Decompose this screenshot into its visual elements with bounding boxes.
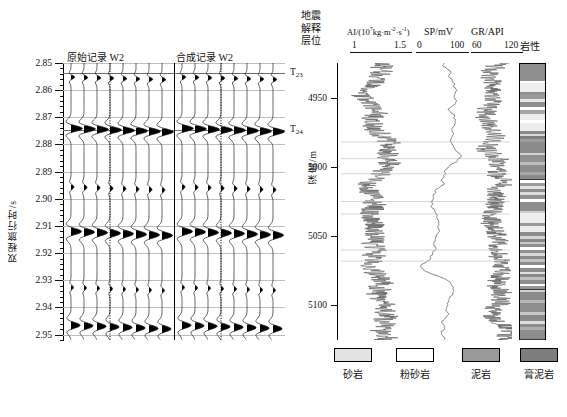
seismic-trace-line — [229, 63, 246, 340]
curve-header-ai: AI/(107kg·m-2·s-1) — [347, 26, 410, 37]
seismic-trace-fill — [247, 76, 258, 332]
seismic-trace-fill — [208, 75, 219, 331]
seismic-trace-line — [118, 63, 135, 340]
seismic-trace-line — [131, 63, 147, 340]
seismic-trace-fill — [234, 76, 245, 332]
seismic-trace-fill — [123, 76, 135, 332]
curve-header-gr: GR/API — [471, 26, 504, 37]
seismic-trace-fill — [136, 77, 147, 332]
seismic-trace-fill — [221, 76, 232, 331]
scale-sp-max: 100 — [450, 40, 464, 50]
horizon-label-subscript: 23 — [296, 71, 303, 79]
y-axis-minor-tick — [60, 340, 65, 341]
scale-bar-sp — [416, 52, 469, 53]
seismic-trace-line — [216, 63, 233, 340]
seismic-trace-fill — [195, 75, 206, 330]
panel-title-synthetic-label: 合成记录 — [176, 52, 216, 63]
panel-title-original-label: 原始记录 — [67, 52, 107, 63]
seismic-trace-fill — [260, 77, 271, 333]
legend-item-mudstone: 泥岩 — [458, 348, 504, 381]
well-log-curves — [337, 63, 512, 340]
legend-item-siltstone: 粉砂岩 — [392, 348, 438, 381]
depth-axis-tick-label: 5000 — [308, 162, 327, 172]
lithology-legend: 砂岩粉砂岩泥岩膏泥岩 — [330, 348, 562, 388]
legend-swatch-sandstone — [334, 348, 372, 362]
legend-item-sandstone: 砂岩 — [330, 348, 376, 381]
seismic-trace-fill — [273, 77, 284, 333]
seismic-trace-line — [255, 63, 272, 340]
legend-swatch-gypsum-mudstone — [520, 348, 558, 362]
figure-canvas: 双程旅行时/s 原始记录 W2 合成记录 W2 T23T24 地震 解释 层位 … — [0, 0, 567, 417]
y-axis-tick-label: 2.91 — [35, 221, 52, 231]
seismic-trace-line — [144, 63, 161, 340]
seismic-trace-fill — [182, 75, 193, 330]
scale-bar-gr — [471, 52, 523, 53]
panel-title-original-well: W2 — [110, 52, 124, 63]
y-axis-tick-label: 2.85 — [35, 58, 52, 68]
depth-axis — [330, 63, 337, 340]
panel-title-synthetic-well: W2 — [219, 52, 233, 63]
scale-bar-ai — [350, 52, 412, 53]
scale-gr-min: 60 — [472, 40, 482, 50]
seismic-trace-fill — [97, 75, 109, 331]
seismic-y-axis-title: 双程旅行时/s — [6, 200, 20, 263]
well-log-panel — [337, 63, 512, 340]
seismic-trace-line — [268, 63, 285, 340]
seismic-trace-fill — [84, 75, 95, 330]
depth-axis-tick-label: 5050 — [308, 231, 327, 241]
scale-gr-max: 120 — [504, 40, 518, 50]
panel-title-original: 原始记录 W2 — [67, 49, 124, 64]
legend-swatch-mudstone — [462, 348, 500, 362]
curve-header-ai-mid: kg·m — [373, 27, 391, 37]
legend-item-gypsum-mudstone: 膏泥岩 — [516, 348, 562, 381]
scale-ai-min: 1 — [352, 40, 357, 50]
y-axis-tick-label: 2.93 — [35, 275, 52, 285]
legend-swatch-siltstone — [396, 348, 434, 362]
seismic-trace-fill — [110, 76, 121, 331]
seismic-group-divider — [174, 63, 175, 340]
seismic-trace-line — [157, 63, 173, 340]
seismic-panel — [63, 63, 285, 340]
seismic-trace-line — [177, 63, 194, 340]
header-seismic-horizon: 地震 解释 层位 — [301, 10, 321, 48]
header-horizon-line2: 解释 — [301, 23, 321, 36]
depth-axis-tick-label: 5100 — [308, 300, 327, 310]
scale-sp-min: 0 — [417, 40, 422, 50]
seismic-trace-line — [242, 63, 259, 340]
header-horizon-line3: 层位 — [301, 35, 321, 48]
seismic-trace-line — [190, 63, 207, 340]
seismic-trace-line — [203, 63, 220, 340]
y-axis-tick-label: 2.92 — [35, 248, 52, 258]
header-horizon-line1: 地震 — [301, 10, 321, 23]
horizon-label-subscript: 24 — [296, 128, 303, 136]
panel-title-synthetic: 合成记录 W2 — [176, 49, 233, 64]
legend-label-gypsum-mudstone: 膏泥岩 — [516, 366, 562, 381]
seismic-trace-fill — [162, 77, 173, 334]
lithology-bed — [520, 64, 545, 82]
legend-label-siltstone: 粉砂岩 — [392, 366, 438, 381]
seismic-trace-line — [105, 63, 121, 340]
seismic-trace-fill — [149, 77, 161, 333]
y-axis-tick-label: 2.95 — [35, 330, 52, 340]
seismic-trace-line — [66, 63, 83, 340]
curve-header-ai-end: ) — [407, 27, 410, 37]
seismic-trace-line — [79, 63, 95, 340]
legend-label-mudstone: 泥岩 — [458, 366, 504, 381]
y-axis-tick-label: 2.89 — [35, 167, 52, 177]
curve-header-sp: SP/mV — [424, 26, 453, 37]
lithology-bed — [520, 330, 545, 340]
scale-ai-max: 1.5 — [394, 40, 406, 50]
y-axis-tick-label: 2.86 — [35, 85, 52, 95]
y-axis-tick-label: 2.87 — [35, 112, 52, 122]
horizon-label-t23: T23 — [290, 66, 303, 79]
legend-label-sandstone: 砂岩 — [330, 366, 376, 381]
depth-axis-tick-label: 4950 — [308, 93, 327, 103]
lithology-column-title: 岩性 — [520, 38, 540, 53]
curve-header-ai-base: AI/(10 — [347, 27, 370, 37]
seismic-trace-fill — [71, 75, 83, 330]
y-axis-tick-label: 2.88 — [35, 139, 52, 149]
seismic-trace-line — [92, 63, 109, 340]
horizon-label-t24: T24 — [290, 123, 303, 136]
y-axis-tick-label: 2.90 — [35, 194, 52, 204]
lithology-column — [519, 63, 546, 340]
